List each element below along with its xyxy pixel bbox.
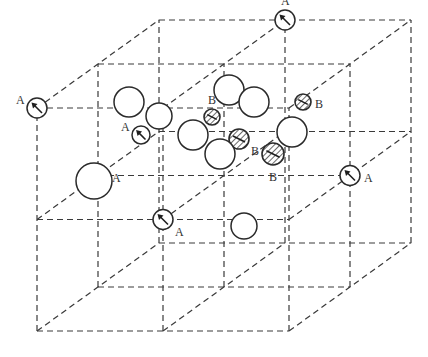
circle <box>205 139 235 169</box>
atom-open <box>277 117 307 147</box>
atom-open <box>239 87 269 117</box>
label-a: A <box>175 225 184 239</box>
atom-a: A <box>121 120 150 144</box>
atom-a: A <box>275 0 295 30</box>
circle <box>178 120 208 150</box>
label-a: A <box>364 171 373 185</box>
atom-open <box>205 139 235 169</box>
atom-open <box>146 103 172 129</box>
label-b: B <box>315 97 323 111</box>
circle <box>239 87 269 117</box>
atom-open <box>178 120 208 150</box>
circle <box>231 213 257 239</box>
circle <box>146 103 172 129</box>
label-b: B <box>269 170 277 184</box>
atom-a: A <box>153 210 184 239</box>
atoms: AAAAAABBBB <box>16 0 373 239</box>
label-a: A <box>112 171 121 185</box>
atom-a: A <box>16 93 47 118</box>
circle <box>277 117 307 147</box>
label-b: B <box>251 144 259 158</box>
circle <box>114 87 144 117</box>
atom-open <box>76 163 112 199</box>
atom-b: B <box>262 143 284 184</box>
circle <box>76 163 112 199</box>
label-a: A <box>16 93 25 107</box>
label-a: A <box>281 0 290 8</box>
atom-open <box>114 87 144 117</box>
label-a: A <box>121 120 130 134</box>
cubic-lattice-diagram: AAAAAABBBB <box>0 0 428 357</box>
atom-b: B <box>295 94 323 111</box>
atom-a: A <box>340 166 373 186</box>
atom-open <box>231 213 257 239</box>
